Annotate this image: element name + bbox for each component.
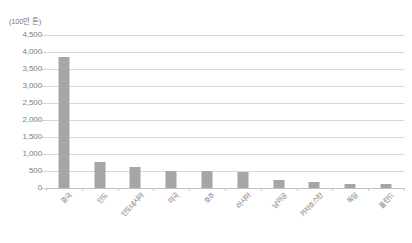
x-axis-category-label: 남아공 xyxy=(270,192,288,210)
y-axis: 4,5004,0003,5003,0002,5002,0001,5001,000… xyxy=(0,35,42,188)
x-axis-tick-mark xyxy=(404,188,405,191)
x-axis-category-label: 미국 xyxy=(167,192,181,206)
x-axis-category-label: 호주 xyxy=(203,192,217,206)
bar-slot xyxy=(225,35,261,188)
x-axis-tick-mark xyxy=(225,188,226,191)
x-axis-tick-mark xyxy=(297,188,298,191)
x-axis-labels: 중국인도인도네시아미국호주러시아남아공카자흐스탄독일폴란드 xyxy=(46,192,404,243)
bar-slot xyxy=(46,35,82,188)
bar[interactable] xyxy=(58,57,69,188)
y-axis-tick-label: 0 xyxy=(6,184,42,192)
x-axis-category-label: 중국 xyxy=(60,192,74,206)
x-axis-tick-mark xyxy=(153,188,154,191)
bar[interactable] xyxy=(273,180,284,189)
x-axis-tick-mark xyxy=(118,188,119,191)
y-axis-tick-label: 2,000 xyxy=(6,116,42,124)
y-axis-unit-label: (100만 톤) xyxy=(9,15,41,26)
bar-slot xyxy=(189,35,225,188)
y-axis-tick-label: 3,000 xyxy=(6,82,42,90)
x-axis-category-label: 독일 xyxy=(346,192,360,206)
bar[interactable] xyxy=(237,172,248,188)
x-axis-category-label: 인도네시아 xyxy=(119,192,145,218)
bar-chart: (100만 톤) 4,5004,0003,5003,0002,5002,0001… xyxy=(0,0,412,243)
bar-slot xyxy=(297,35,333,188)
y-axis-tick-label: 1,500 xyxy=(6,133,42,141)
x-axis-tick-mark xyxy=(368,188,369,191)
y-axis-tick-label: 4,500 xyxy=(6,31,42,39)
bar-slot xyxy=(261,35,297,188)
x-axis-category-label: 카자흐스탄 xyxy=(298,192,324,218)
bar-slot xyxy=(153,35,189,188)
y-axis-tick-label: 500 xyxy=(6,167,42,175)
bar[interactable] xyxy=(130,167,141,188)
x-axis-category-label: 인도 xyxy=(95,192,109,206)
bars-layer xyxy=(46,35,404,188)
bar[interactable] xyxy=(202,171,213,188)
x-axis-tick-mark xyxy=(46,188,47,191)
bar-slot xyxy=(332,35,368,188)
y-axis-tick-label: 1,000 xyxy=(6,150,42,158)
bar-slot xyxy=(82,35,118,188)
x-axis-tick-mark xyxy=(332,188,333,191)
bar-slot xyxy=(368,35,404,188)
y-axis-tick-label: 4,000 xyxy=(6,48,42,56)
y-axis-tick-label: 3,500 xyxy=(6,65,42,73)
x-axis-category-label: 폴란드 xyxy=(378,192,396,210)
bar[interactable] xyxy=(166,171,177,188)
bar[interactable] xyxy=(94,162,105,188)
x-axis-tick-mark xyxy=(189,188,190,191)
x-axis-category-label: 러시아 xyxy=(235,192,253,210)
x-axis-tick-mark xyxy=(82,188,83,191)
x-axis-tick-mark xyxy=(261,188,262,191)
bar-slot xyxy=(118,35,154,188)
y-axis-tick-label: 2,500 xyxy=(6,99,42,107)
